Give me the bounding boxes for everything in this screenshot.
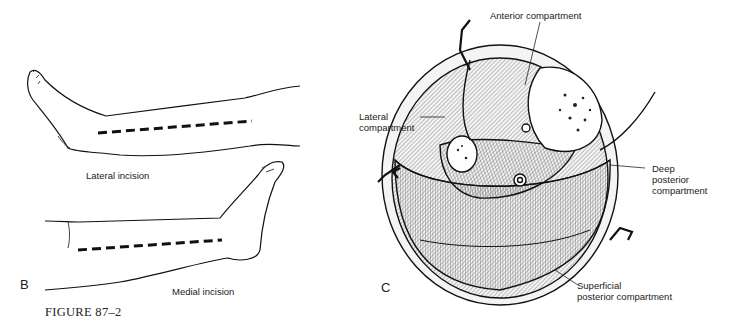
lateral-incision-line — [98, 121, 252, 133]
superficial-posterior-compartment-label: Superficial posterior compartment — [577, 280, 672, 302]
medial-incision-line — [78, 240, 222, 250]
medial-incision-label: Medial incision — [172, 286, 234, 297]
figure-caption: FIGURE 87–2 — [45, 305, 122, 320]
leg-cross-section — [382, 45, 618, 305]
panel-b-letter: B — [20, 277, 29, 292]
deep-posterior-compartment-label: Deep posterior compartment — [652, 163, 707, 196]
panel-c-letter: C — [381, 280, 390, 295]
lateral-leg-drawing — [28, 70, 300, 156]
anterior-compartment-label: Anterior compartment — [490, 10, 581, 21]
medial-leg-drawing — [45, 162, 284, 290]
lateral-compartment-label: Lateral compartment — [359, 111, 414, 133]
lateral-incision-label: Lateral incision — [86, 170, 149, 181]
